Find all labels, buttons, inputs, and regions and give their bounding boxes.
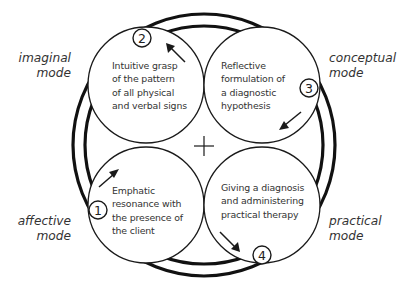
stage-text-1: Emphatic resonance with the presence of …: [112, 184, 183, 238]
mode-label-practical: practical mode: [329, 214, 382, 244]
cycle-diagram: 2 3 1 4: [0, 0, 408, 293]
center-cross-icon: [194, 136, 214, 156]
stage-badge-3: 3: [300, 79, 318, 97]
mode-label-conceptual: conceptual mode: [329, 51, 396, 81]
svg-text:2: 2: [138, 31, 146, 46]
mode-label-affective: affective mode: [18, 214, 71, 244]
stage-text-3: Reflective formulation of a diagnostic h…: [221, 59, 285, 113]
stage-text-2: Intuitive grasp of the pattern of all ph…: [112, 59, 187, 113]
svg-text:4: 4: [258, 248, 266, 263]
stage-badge-1: 1: [89, 201, 107, 219]
svg-text:1: 1: [94, 203, 102, 218]
stage-badge-2: 2: [133, 29, 151, 47]
mode-label-imaginal: imaginal mode: [19, 51, 71, 81]
stage-badge-4: 4: [253, 246, 271, 264]
stage-text-4: Giving a diagnosis and administering pra…: [221, 181, 304, 221]
svg-text:3: 3: [305, 81, 313, 96]
